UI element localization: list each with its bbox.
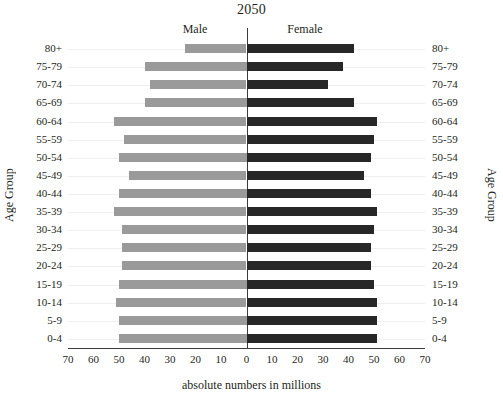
pyramid-row: [68, 117, 425, 127]
bar-female: [247, 44, 354, 53]
y-tick-label-left: 25-29: [4, 242, 62, 253]
bar-male: [145, 62, 247, 71]
bar-female: [247, 225, 375, 234]
y-tick-label-left: 60-64: [4, 116, 62, 127]
x-tick-label: 20: [286, 354, 310, 365]
y-tick-label-right: 80+: [432, 43, 480, 54]
x-tick-label: 60: [82, 354, 106, 365]
pyramid-row: [68, 261, 425, 271]
pyramid-row: [68, 334, 425, 344]
x-tick-label: 60: [388, 354, 412, 365]
pyramid-row: [68, 153, 425, 163]
bar-male: [116, 298, 246, 307]
y-axis-title-right: Age Group: [484, 120, 499, 270]
y-tick-label-right: 75-79: [432, 61, 480, 72]
bar-male: [114, 207, 247, 216]
bar-female: [247, 153, 372, 162]
plot-area: [68, 40, 425, 348]
x-tick-label: 10: [260, 354, 284, 365]
pyramid-row: [68, 298, 425, 308]
bar-female: [247, 135, 375, 144]
x-tick-label: 70: [413, 354, 437, 365]
x-tick-label: 50: [362, 354, 386, 365]
pyramid-row: [68, 135, 425, 145]
y-tick-label-left: 35-39: [4, 206, 62, 217]
bar-female: [247, 189, 372, 198]
x-tick-label: 0: [235, 354, 259, 365]
y-tick-label-right: 10-14: [432, 297, 480, 308]
y-tick-label-left: 15-19: [4, 279, 62, 290]
y-tick-label-right: 55-59: [432, 134, 480, 145]
bar-male: [122, 261, 247, 270]
x-tick-label: 10: [209, 354, 233, 365]
bar-male: [119, 153, 247, 162]
bar-female: [247, 334, 377, 343]
bar-female: [247, 62, 344, 71]
x-tick-label: 40: [337, 354, 361, 365]
bar-male: [119, 280, 247, 289]
y-tick-label-right: 15-19: [432, 279, 480, 290]
bar-female: [247, 280, 375, 289]
y-tick-label-left: 45-49: [4, 170, 62, 181]
bar-male: [122, 225, 247, 234]
y-tick-label-right: 0-4: [432, 333, 480, 344]
bar-female: [247, 298, 377, 307]
y-tick-label-left: 0-4: [4, 333, 62, 344]
legend-label-male: Male: [150, 22, 240, 37]
y-tick-label-right: 45-49: [432, 170, 480, 181]
x-tick-label: 70: [56, 354, 80, 365]
bar-female: [247, 243, 372, 252]
pyramid-row: [68, 171, 425, 181]
y-tick-label-right: 65-69: [432, 97, 480, 108]
bar-female: [247, 261, 372, 270]
bar-female: [247, 98, 354, 107]
y-tick-label-right: 40-44: [432, 188, 480, 199]
pyramid-row: [68, 280, 425, 290]
y-tick-label-right: 25-29: [432, 242, 480, 253]
bar-male: [150, 80, 247, 89]
y-tick-label-left: 40-44: [4, 188, 62, 199]
bar-female: [247, 207, 377, 216]
bar-female: [247, 117, 377, 126]
bar-male: [119, 189, 247, 198]
bar-female: [247, 80, 329, 89]
y-tick-label-right: 35-39: [432, 206, 480, 217]
pyramid-row: [68, 189, 425, 199]
bar-male: [114, 117, 247, 126]
chart-title: 2050: [0, 2, 503, 18]
y-tick-label-left: 65-69: [4, 97, 62, 108]
x-tick-label: 20: [184, 354, 208, 365]
pyramid-row: [68, 80, 425, 90]
y-tick-label-left: 5-9: [4, 315, 62, 326]
bar-male: [122, 243, 247, 252]
y-tick-label-left: 30-34: [4, 224, 62, 235]
bar-male: [119, 334, 247, 343]
x-axis-title: absolute numbers in millions: [0, 378, 503, 393]
y-tick-label-right: 30-34: [432, 224, 480, 235]
y-tick-label-left: 10-14: [4, 297, 62, 308]
y-tick-label-right: 60-64: [432, 116, 480, 127]
y-tick-label-left: 75-79: [4, 61, 62, 72]
pyramid-row: [68, 62, 425, 72]
x-axis-line: [68, 348, 425, 350]
x-tick-label: 40: [133, 354, 157, 365]
pyramid-row: [68, 98, 425, 108]
legend-label-female: Female: [255, 22, 355, 37]
pyramid-row: [68, 225, 425, 235]
y-tick-label-left: 80+: [4, 43, 62, 54]
y-tick-label-right: 20-24: [432, 260, 480, 271]
pyramid-row: [68, 243, 425, 253]
x-tick-label: 30: [311, 354, 335, 365]
y-tick-label-left: 50-54: [4, 152, 62, 163]
bar-male: [119, 316, 247, 325]
bar-male: [185, 44, 246, 53]
x-tick-label: 30: [158, 354, 182, 365]
y-tick-label-right: 70-74: [432, 79, 480, 90]
bar-male: [145, 98, 247, 107]
y-tick-label-left: 70-74: [4, 79, 62, 90]
y-tick-label-right: 50-54: [432, 152, 480, 163]
x-tick-label: 50: [107, 354, 131, 365]
bar-male: [124, 135, 246, 144]
y-tick-label-left: 20-24: [4, 260, 62, 271]
bar-female: [247, 316, 377, 325]
